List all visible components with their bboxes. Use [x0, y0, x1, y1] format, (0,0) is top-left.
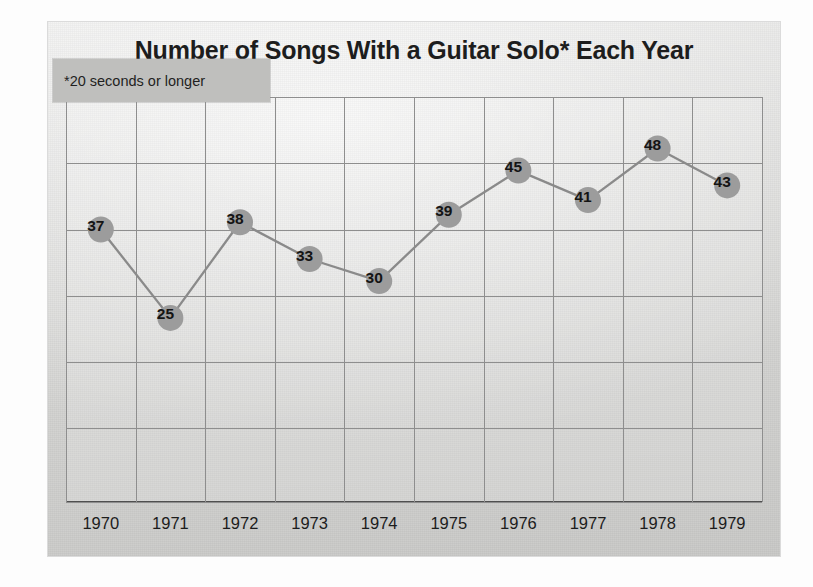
- footnote-callout: *20 seconds or longer: [53, 59, 270, 102]
- x-tick-label: 1972: [222, 514, 259, 533]
- x-tick-label: 1979: [709, 514, 746, 533]
- data-point-label: 48: [644, 136, 662, 153]
- data-point-label: 30: [366, 269, 383, 286]
- horizontal-gridline: [66, 502, 762, 503]
- data-point-label: 33: [296, 247, 314, 264]
- data-point-markers: 37253833303945414843: [87, 136, 740, 331]
- plot-area: 37253833303945414843: [66, 97, 762, 502]
- data-point-label: 38: [226, 210, 244, 227]
- series-line: [101, 149, 727, 318]
- x-tick-label: 1975: [430, 514, 467, 533]
- x-axis-tick-labels: 1970197119721973197419751976197719781979: [66, 514, 762, 548]
- x-tick-label: 1973: [291, 514, 328, 533]
- footnote-label: *20 seconds or longer: [53, 73, 205, 89]
- chart-card: Number of Songs With a Guitar Solo* Each…: [48, 22, 780, 556]
- vertical-gridline: [762, 97, 763, 502]
- x-tick-label: 1978: [639, 514, 676, 533]
- x-tick-label: 1974: [361, 514, 398, 533]
- line-series-svg: 37253833303945414843: [66, 97, 762, 502]
- scanned-page: Number of Songs With a Guitar Solo* Each…: [0, 0, 813, 587]
- x-tick-label: 1976: [500, 514, 537, 533]
- data-point-label: 43: [714, 173, 732, 190]
- x-tick-label: 1977: [570, 514, 607, 533]
- x-tick-label: 1971: [152, 514, 189, 533]
- data-point-label: 37: [87, 217, 104, 234]
- data-point-label: 39: [435, 202, 453, 219]
- data-point-label: 25: [157, 305, 175, 322]
- x-tick-label: 1970: [82, 514, 119, 533]
- data-point-label: 45: [505, 158, 523, 175]
- data-point-label: 41: [574, 188, 592, 205]
